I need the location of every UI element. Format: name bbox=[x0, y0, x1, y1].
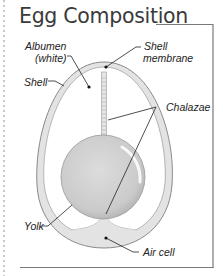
label-chalazae: Chalazae bbox=[166, 101, 210, 113]
label-albumen-white: (white) bbox=[35, 52, 67, 64]
yolk bbox=[61, 135, 145, 219]
label-shell: Shell bbox=[24, 76, 47, 88]
label-shell-membrane-line1: Shell bbox=[144, 40, 167, 52]
label-albumen: Albumen bbox=[25, 40, 66, 52]
label-shell-membrane-line2: membrane bbox=[143, 52, 193, 64]
label-air-cell: Air cell bbox=[143, 246, 175, 258]
label-yolk: Yolk bbox=[24, 220, 44, 232]
